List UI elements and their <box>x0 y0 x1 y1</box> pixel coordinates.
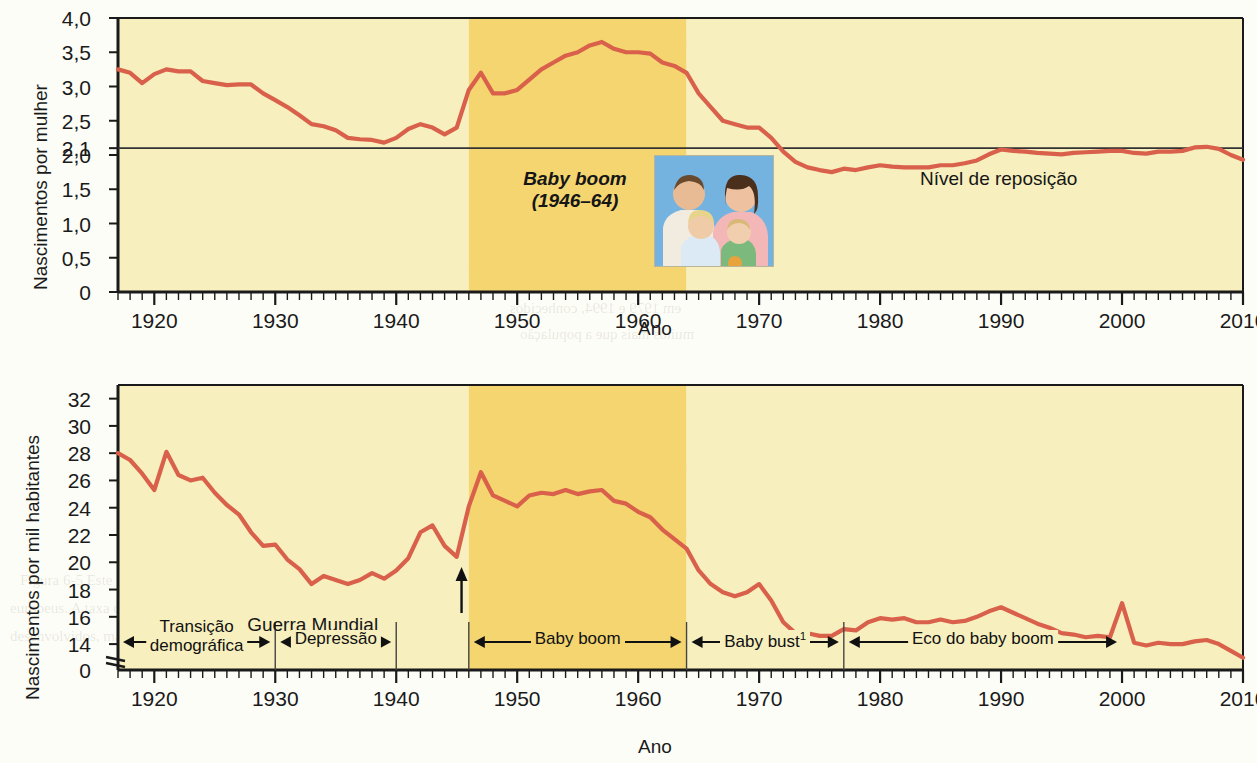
annotation-baby-boom-title: Baby boom <box>523 168 626 190</box>
family-photo-image <box>655 156 774 267</box>
annotation-baby-boom-years: (1946–64) <box>532 190 619 212</box>
phase-label: Eco do baby boom <box>908 630 1058 649</box>
plot-area-birthrate <box>0 370 1257 763</box>
x-axis-title-top: Ano <box>638 318 672 340</box>
shaded-band-1 <box>469 385 687 670</box>
chart-fertility: Nascimentos por mulher 4,03,53,02,52,12,… <box>0 0 1257 345</box>
phase-label: Baby boom <box>531 630 625 649</box>
figure-page: Crescimento populacional e taxas fertili… <box>0 0 1257 763</box>
shaded-band-2 <box>687 385 1243 670</box>
annotation-replacement-level: Nível de reposição <box>920 168 1077 190</box>
x-axis-title-bottom: Ano <box>638 736 672 758</box>
family-photo <box>654 155 774 267</box>
shaded-band-0 <box>118 18 469 292</box>
phase-label: Depressão <box>291 630 381 649</box>
phase-label: Baby bust1 <box>720 630 810 651</box>
phase-label: Transiçãodemográfica <box>146 618 248 655</box>
chart-birthrate: Nascimentos por mil habitantes 323028262… <box>0 370 1257 763</box>
